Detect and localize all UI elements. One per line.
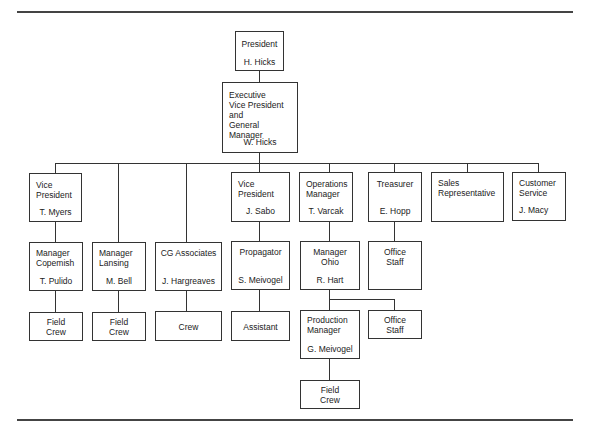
connector: [259, 70, 260, 82]
node-assistant: Assistant: [231, 311, 290, 341]
connector: [55, 163, 56, 173]
node-name: T. Varcak: [300, 206, 352, 216]
connector: [55, 222, 56, 242]
node-title: Field Crew: [30, 317, 82, 337]
connector: [329, 358, 330, 380]
node-title: Operations Manager: [306, 179, 348, 199]
node-title: Customer Service: [519, 178, 561, 198]
node-title: Crew: [156, 322, 221, 332]
connector: [186, 163, 187, 242]
node-name: W. Hicks: [223, 137, 297, 147]
connector: [394, 299, 395, 310]
node-title: CG Associates: [156, 248, 221, 258]
connector: [329, 299, 395, 300]
node-title: Executive Vice President and General Man…: [229, 90, 293, 140]
node-propagator: Propagator S. Meivogel: [231, 241, 290, 290]
node-field-crew-3: Field Crew: [300, 380, 360, 409]
node-copemish: Manager Copemish T. Pulido: [29, 242, 83, 291]
connector: [394, 221, 395, 242]
node-treasurer: Treasurer E. Hopp: [368, 172, 422, 222]
node-title: Sales Representative: [438, 178, 499, 198]
node-vp-sabo: Vice President J. Sabo: [231, 172, 290, 222]
connector: [55, 290, 56, 312]
node-title: Assistant: [232, 322, 289, 332]
node-title: Treasurer: [369, 179, 421, 189]
node-title: Manager Lansing: [99, 248, 141, 268]
node-office-staff-1: Office Staff: [368, 241, 422, 290]
node-name: G. Meivogel: [301, 344, 359, 354]
node-title: Vice President: [36, 180, 77, 200]
node-name: J. Hargreaves: [156, 276, 221, 286]
node-title: President: [236, 39, 283, 49]
node-customer: Customer Service J. Macy: [512, 172, 566, 221]
connector: [186, 290, 187, 312]
connector: [329, 221, 330, 242]
node-name: M. Bell: [93, 276, 145, 286]
node-name: R. Hart: [301, 275, 359, 285]
node-name: S. Meivogel: [232, 275, 289, 285]
node-name: H. Hicks: [236, 57, 283, 67]
node-crew: Crew: [155, 311, 222, 341]
node-title: Vice President: [238, 179, 285, 199]
node-production: Production Manager G. Meivogel: [300, 310, 360, 359]
node-field-crew-1: Field Crew: [29, 312, 83, 341]
node-title: Office Staff: [369, 315, 421, 335]
node-sales: Sales Representative: [431, 172, 504, 222]
node-name: T. Myers: [30, 207, 81, 217]
bottom-rule: [17, 419, 573, 421]
node-title: Manager Ohio: [301, 247, 359, 267]
top-rule: [17, 11, 573, 13]
node-title: Manager Copemish: [36, 248, 78, 268]
connector: [118, 163, 119, 242]
node-lansing: Manager Lansing M. Bell: [92, 242, 146, 291]
node-evp: Executive Vice President and General Man…: [222, 82, 298, 153]
node-title: Production Manager: [307, 315, 355, 335]
node-name: T. Pulido: [30, 276, 82, 286]
connector: [259, 290, 260, 312]
node-title: Field Crew: [301, 385, 359, 405]
node-field-crew-2: Field Crew: [92, 312, 146, 341]
node-vp-myers: Vice President T. Myers: [29, 173, 82, 222]
node-cg: CG Associates J. Hargreaves: [155, 242, 222, 291]
node-title: Propagator: [232, 247, 289, 257]
node-ohio: Manager Ohio R. Hart: [300, 241, 360, 290]
node-title: Field Crew: [93, 317, 145, 337]
node-office-staff-2: Office Staff: [368, 310, 422, 339]
connector: [259, 221, 260, 242]
node-name: E. Hopp: [369, 206, 421, 216]
node-title: Office Staff: [369, 247, 421, 267]
node-ops: Operations Manager T. Varcak: [299, 172, 353, 222]
connector: [118, 290, 119, 312]
connector: [259, 152, 260, 163]
node-president: President H. Hicks: [235, 31, 284, 71]
node-name: J. Macy: [519, 205, 561, 215]
node-name: J. Sabo: [232, 206, 289, 216]
